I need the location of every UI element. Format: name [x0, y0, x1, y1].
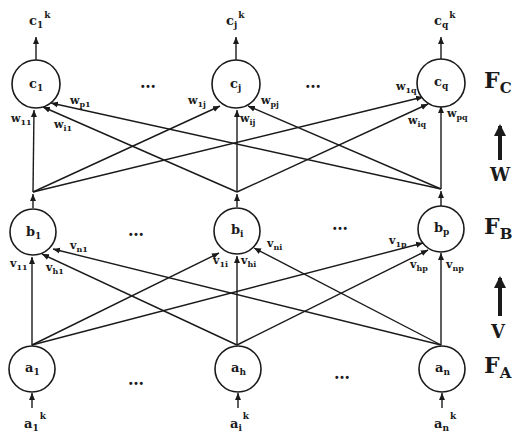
ellipsis-fa-2: … — [334, 364, 351, 383]
label-wpq: wpq — [446, 107, 468, 122]
label-vn1: vn1 — [69, 239, 88, 254]
label-w11: w11 — [10, 112, 32, 127]
edge-vhp — [237, 250, 428, 345]
label-vhp: vhp — [409, 258, 428, 273]
edge-wiq — [237, 104, 428, 192]
layer-label-fb: FB — [484, 213, 512, 243]
label-w1j: w1j — [187, 94, 206, 109]
input-label-a1k: a1k — [24, 411, 47, 433]
label-vhi: vhi — [240, 254, 256, 269]
label-wi1: wi1 — [53, 118, 72, 133]
edge-w11 — [33, 110, 34, 192]
label-vni: vni — [266, 237, 282, 252]
label-v1i: v1i — [212, 254, 228, 269]
w-connections — [33, 97, 441, 192]
layer-label-fa: FA — [484, 352, 512, 382]
label-wiq: wiq — [407, 114, 427, 129]
ellipsis-fb-1: … — [128, 221, 145, 240]
output-label-c1k: c1k — [29, 10, 51, 30]
label-v1p: v1p — [388, 234, 407, 249]
layer-label-fc: FC — [484, 67, 512, 97]
input-label-aik: aik — [230, 411, 250, 433]
weight-label-w: W — [489, 164, 511, 185]
ellipsis-fa-1: … — [128, 370, 145, 389]
weight-label-v: V — [490, 321, 506, 342]
ellipsis-fb-2: … — [332, 215, 349, 234]
label-w1q: w1q — [395, 80, 417, 95]
label-v11: v11 — [9, 257, 28, 272]
layer-fc: c1 cj cq c1k cjk cqk … … — [12, 10, 465, 108]
layer-labels: FC FB FA W V — [484, 67, 512, 382]
b-output-arrows — [33, 191, 441, 208]
v-connections — [32, 243, 441, 345]
input-label-ank: ank — [434, 411, 457, 433]
ellipsis-fc-2: … — [305, 73, 322, 92]
label-wpj: wpj — [260, 94, 279, 109]
label-wp1: wp1 — [69, 94, 91, 109]
output-label-cjk: cjk — [226, 10, 245, 30]
label-vnp: vnp — [445, 258, 464, 273]
layer-fa: a1 ah an a1k aik ank … … — [9, 346, 465, 433]
ellipsis-fc-1: … — [140, 73, 157, 92]
output-label-cqk: cqk — [434, 10, 456, 30]
network-diagram: c1 cj cq c1k cjk cqk … … b1 bi bp … … a1… — [0, 0, 523, 446]
label-wij: wij — [239, 112, 256, 127]
